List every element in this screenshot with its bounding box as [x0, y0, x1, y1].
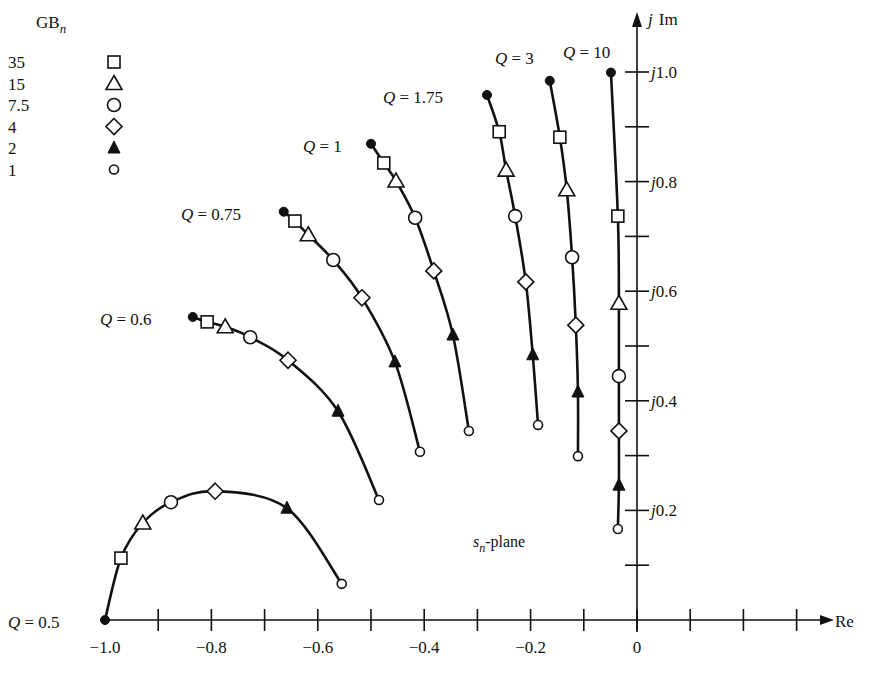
- y-axis-label: jIm: [646, 10, 678, 29]
- triangle-marker-icon: [559, 182, 575, 196]
- diamond-marker-icon: [354, 290, 370, 306]
- q-label: Q = 0.75: [181, 205, 241, 224]
- x-axis-arrow-icon: [820, 615, 834, 625]
- q-label: Q = 10: [563, 43, 610, 62]
- square-marker-icon: [554, 131, 566, 143]
- circle-marker-icon: [409, 211, 422, 224]
- q-label: Q = 0.6: [100, 310, 152, 329]
- axes: −1.0−0.8−0.6−0.4−0.20j1.0j0.8j0.6j0.4j0.…: [90, 12, 834, 657]
- x-axis-label: Re: [835, 612, 854, 631]
- legend-label: 1: [8, 161, 17, 180]
- small-circle-marker-icon: [415, 447, 424, 456]
- circle-marker-icon: [612, 370, 625, 383]
- small-circle-marker-icon: [573, 452, 582, 461]
- square-marker-icon: [115, 552, 127, 564]
- pole-locus-plot: −1.0−0.8−0.6−0.4−0.20j1.0j0.8j0.6j0.4j0.…: [0, 0, 878, 682]
- small-circle-marker-icon: [534, 420, 543, 429]
- square-marker-icon: [201, 316, 213, 328]
- small-circle-marker-icon: [374, 495, 383, 504]
- filled-triangle-marker-icon: [108, 141, 120, 153]
- q-label: Q = 1.75: [383, 88, 443, 107]
- small-circle-marker-icon: [110, 165, 119, 174]
- x-tick-label: −1.0: [90, 638, 121, 657]
- small-circle-marker-icon: [613, 525, 622, 534]
- diamond-marker-icon: [568, 317, 584, 333]
- circle-marker-icon: [566, 251, 579, 264]
- triangle-marker-icon: [388, 173, 404, 187]
- x-tick-label: −0.6: [302, 638, 333, 657]
- circle-marker-icon: [108, 99, 121, 112]
- ideal-pole-dot-icon: [367, 139, 376, 148]
- triangle-marker-icon: [498, 162, 514, 176]
- locus-curve: [284, 212, 420, 452]
- x-tick-label: −0.4: [409, 638, 440, 657]
- small-circle-marker-icon: [464, 426, 473, 435]
- filled-triangle-marker-icon: [613, 478, 625, 490]
- x-tick-label: −0.8: [196, 638, 227, 657]
- y-axis-arrow-icon: [632, 12, 642, 27]
- q-label: Q = 0.5: [8, 613, 60, 632]
- q-label: Q = 1: [303, 137, 342, 156]
- locus-curve: [487, 95, 538, 425]
- ideal-pole-dot-icon: [545, 76, 554, 85]
- filled-triangle-marker-icon: [447, 328, 459, 340]
- locus-curve: [105, 491, 342, 620]
- triangle-marker-icon: [106, 76, 122, 90]
- diamond-marker-icon: [426, 263, 442, 279]
- legend-label: 7.5: [8, 96, 29, 115]
- circle-marker-icon: [327, 253, 340, 266]
- filled-triangle-marker-icon: [572, 385, 584, 397]
- ideal-pole-dot-icon: [101, 616, 110, 625]
- circle-marker-icon: [164, 496, 177, 509]
- square-marker-icon: [493, 126, 505, 138]
- ideal-pole-dot-icon: [188, 312, 197, 321]
- locus-curve: [193, 317, 379, 500]
- ideal-pole-dot-icon: [482, 91, 491, 100]
- square-marker-icon: [378, 157, 390, 169]
- ideal-pole-dot-icon: [606, 68, 615, 77]
- x-tick-label: −0.2: [515, 638, 546, 657]
- legend-label: 2: [8, 139, 17, 158]
- chart-figure: −1.0−0.8−0.6−0.4−0.20j1.0j0.8j0.6j0.4j0.…: [0, 0, 878, 682]
- triangle-marker-icon: [611, 295, 627, 309]
- legend-label: 35: [8, 53, 25, 72]
- q-curves: [105, 73, 619, 620]
- diamond-marker-icon: [207, 483, 223, 499]
- y-tick-label: j0.2: [649, 501, 677, 520]
- legend: GBn 35157.5421: [8, 13, 122, 180]
- y-tick-label: j1.0: [649, 63, 677, 82]
- square-marker-icon: [612, 210, 624, 222]
- legend-title: GBn: [36, 13, 66, 36]
- data-markers: [101, 68, 627, 624]
- diamond-marker-icon: [611, 423, 627, 439]
- ideal-pole-dot-icon: [279, 207, 288, 216]
- plane-label: sn-plane: [473, 533, 525, 555]
- locus-curve: [371, 144, 469, 431]
- y-tick-label: j0.6: [649, 282, 677, 301]
- x-tick-label: 0: [633, 638, 642, 657]
- square-marker-icon: [108, 56, 120, 68]
- square-marker-icon: [289, 215, 301, 227]
- filled-triangle-marker-icon: [389, 355, 401, 367]
- y-tick-label: j0.8: [649, 173, 677, 192]
- circle-marker-icon: [244, 331, 257, 344]
- legend-label: 15: [8, 75, 25, 94]
- filled-triangle-marker-icon: [527, 348, 539, 360]
- diamond-marker-icon: [106, 119, 122, 135]
- q-label: Q = 3: [495, 49, 534, 68]
- circle-marker-icon: [509, 210, 522, 223]
- small-circle-marker-icon: [337, 579, 346, 588]
- y-tick-label: j0.4: [649, 392, 677, 411]
- diamond-marker-icon: [518, 274, 534, 290]
- filled-triangle-marker-icon: [281, 501, 293, 513]
- legend-label: 4: [8, 118, 17, 137]
